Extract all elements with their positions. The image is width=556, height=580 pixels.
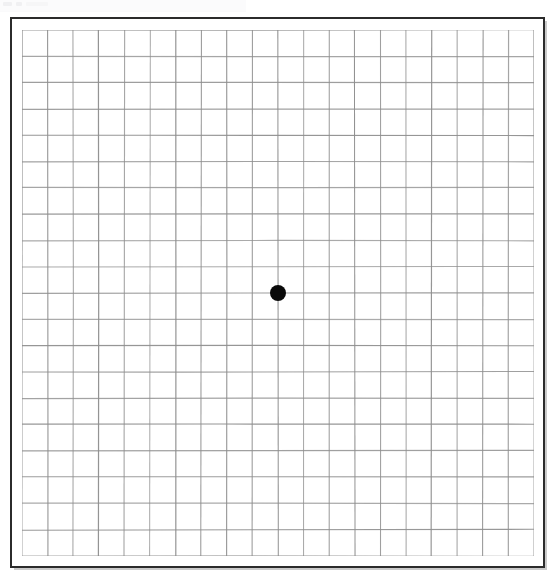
top-chrome-strip [0,0,246,12]
chrome-mark-icon [16,2,22,6]
chart-frame [10,17,545,568]
fixation-dot [270,285,286,301]
chrome-mark-icon [26,2,48,6]
chrome-mark-icon [3,2,12,6]
amsler-grid [22,30,534,556]
